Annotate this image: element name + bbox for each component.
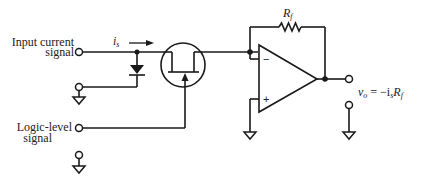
circuit-diagram: Input current signal is (0, 0, 427, 196)
current-label: is (113, 34, 119, 49)
logic-label-line2: signal (23, 131, 52, 145)
noninverting-input-sign: + (263, 93, 269, 105)
logic-return-terminal (76, 152, 83, 159)
output-node-dot (322, 76, 328, 82)
output-terminal (346, 76, 353, 83)
resistor-icon (279, 23, 301, 31)
inverting-input-sign: − (263, 53, 269, 65)
feedback-resistor-label: Rf (282, 6, 294, 21)
ground-icon (73, 159, 85, 174)
feedback-path (250, 23, 325, 79)
input-label-line2: signal (45, 45, 74, 59)
ground-icon (343, 109, 355, 140)
logic-terminal (76, 125, 83, 132)
ground-icon (73, 91, 85, 105)
return-terminal (76, 84, 83, 91)
input-terminal (76, 49, 83, 56)
ground-icon (244, 132, 256, 139)
current-direction-arrow (129, 40, 154, 46)
diode-symbol (83, 52, 146, 87)
op-amp-icon (244, 45, 317, 139)
output-return-terminal (346, 102, 353, 109)
jfet-switch-icon (161, 43, 205, 128)
output-equation: vo = −isRf (358, 85, 405, 100)
